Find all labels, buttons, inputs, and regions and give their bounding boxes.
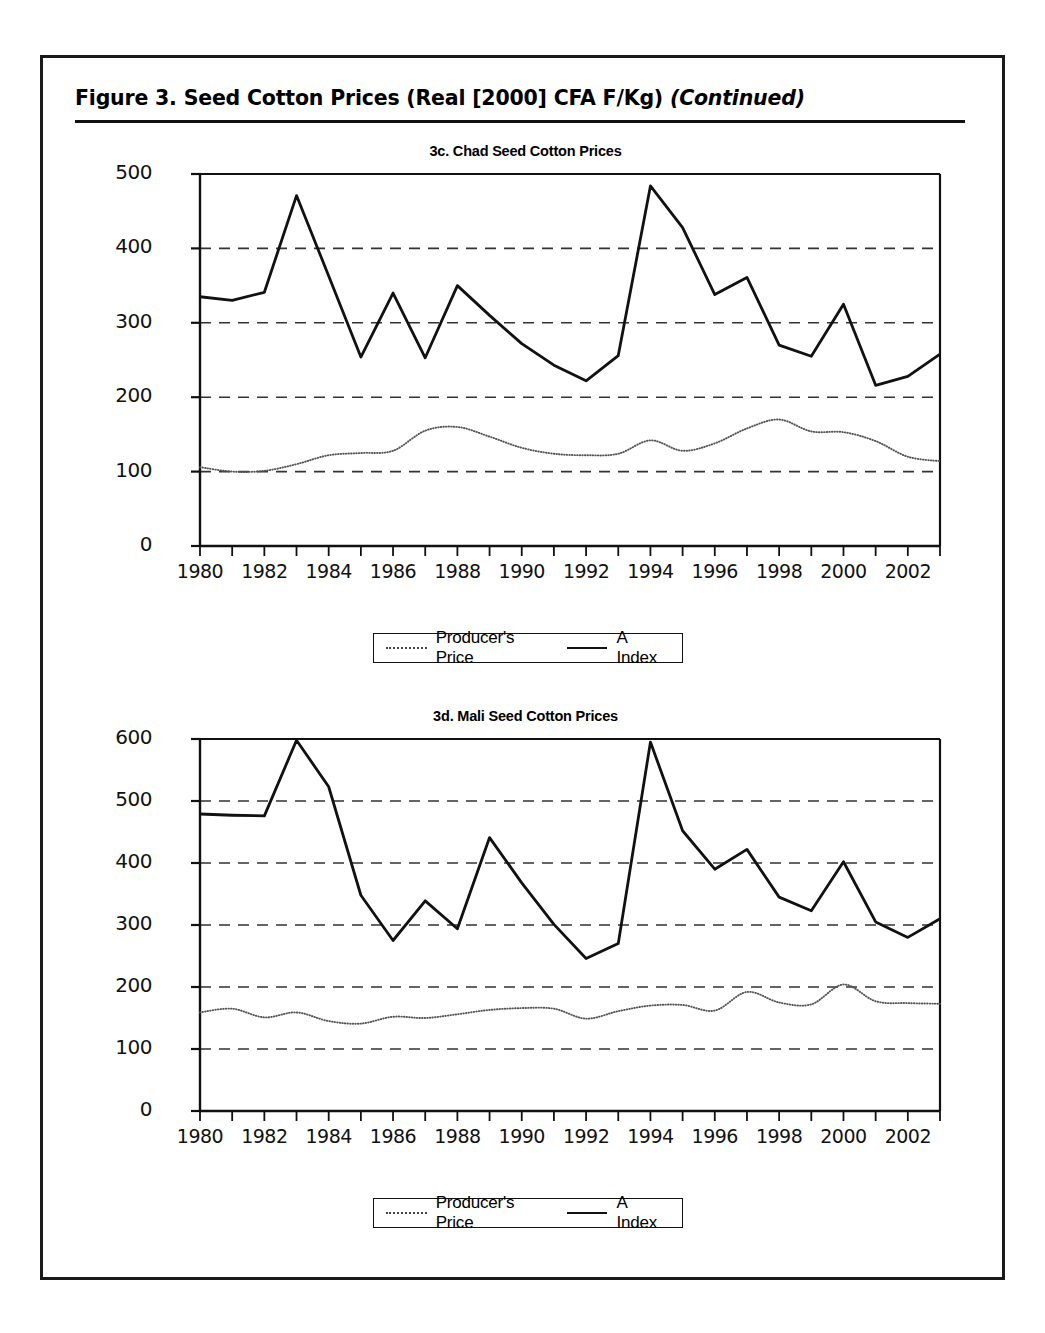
- series-a-index: [200, 186, 940, 385]
- solid-line-swatch-icon: [567, 647, 608, 649]
- chart-3c-legend: Producer's Price A Index: [373, 633, 683, 663]
- x-axis-tick-label: 1988: [422, 560, 492, 582]
- figure-page: Figure 3. Seed Cotton Prices (Real [2000…: [40, 55, 1005, 1280]
- x-axis-tick-label: 2000: [808, 560, 878, 582]
- figure-title-main: Figure 3. Seed Cotton Prices (Real [2000…: [75, 86, 670, 110]
- legend-item-producers-price: Producer's Price: [386, 1193, 553, 1233]
- x-axis-tick-label: 2000: [808, 1125, 878, 1147]
- y-axis-tick-label: 500: [80, 160, 152, 184]
- x-axis-tick-label: 1984: [294, 1125, 364, 1147]
- chart-3c-svg: [158, 168, 948, 588]
- y-axis-tick-label: 200: [80, 973, 152, 997]
- x-axis-tick-label: 1980: [165, 1125, 235, 1147]
- y-axis-tick-label: 300: [80, 309, 152, 333]
- legend-label-producers-price: Producer's Price: [436, 1193, 553, 1233]
- x-axis-tick-label: 1998: [744, 1125, 814, 1147]
- chart-3c: 3c. Chad Seed Cotton Prices Producer's P…: [43, 143, 1008, 688]
- y-axis-tick-label: 400: [80, 234, 152, 258]
- chart-3d-svg: [158, 733, 948, 1153]
- x-axis-tick-label: 1982: [229, 560, 299, 582]
- legend-item-producers-price: Producer's Price: [386, 628, 553, 668]
- y-axis-tick-label: 300: [80, 911, 152, 935]
- legend-label-a-index: A Index: [616, 1193, 670, 1233]
- chart-3d: 3d. Mali Seed Cotton Prices Producer's P…: [43, 708, 1008, 1268]
- dotted-line-swatch-icon: [386, 647, 427, 649]
- x-axis-tick-label: 1994: [615, 1125, 685, 1147]
- x-axis-tick-label: 1984: [294, 560, 364, 582]
- legend-label-producers-price: Producer's Price: [436, 628, 553, 668]
- y-axis-tick-label: 100: [80, 458, 152, 482]
- chart-3d-legend: Producer's Price A Index: [373, 1198, 683, 1228]
- figure-title: Figure 3. Seed Cotton Prices (Real [2000…: [75, 86, 965, 110]
- legend-item-a-index: A Index: [567, 628, 670, 668]
- y-axis-tick-label: 600: [80, 725, 152, 749]
- x-axis-tick-label: 1998: [744, 560, 814, 582]
- y-axis-tick-label: 100: [80, 1035, 152, 1059]
- y-axis-tick-label: 200: [80, 383, 152, 407]
- y-axis-tick-label: 0: [80, 1097, 152, 1121]
- solid-line-swatch-icon: [567, 1212, 608, 1214]
- x-axis-tick-label: 1990: [487, 560, 557, 582]
- chart-3c-plot-area: [158, 168, 948, 588]
- legend-label-a-index: A Index: [616, 628, 670, 668]
- x-axis-tick-label: 2002: [873, 560, 943, 582]
- x-axis-tick-label: 1980: [165, 560, 235, 582]
- chart-3c-title: 3c. Chad Seed Cotton Prices: [43, 143, 1008, 159]
- x-axis-tick-label: 1988: [422, 1125, 492, 1147]
- x-axis-tick-label: 1986: [358, 1125, 428, 1147]
- x-axis-tick-label: 2002: [873, 1125, 943, 1147]
- x-axis-tick-label: 1992: [551, 560, 621, 582]
- legend-item-a-index: A Index: [567, 1193, 670, 1233]
- x-axis-tick-label: 1990: [487, 1125, 557, 1147]
- chart-3d-title: 3d. Mali Seed Cotton Prices: [43, 708, 1008, 724]
- x-axis-tick-label: 1982: [229, 1125, 299, 1147]
- x-axis-tick-label: 1992: [551, 1125, 621, 1147]
- series-producers-price: [200, 985, 940, 1024]
- dotted-line-swatch-icon: [386, 1212, 427, 1214]
- y-axis-tick-label: 400: [80, 849, 152, 873]
- chart-3d-plot-area: [158, 733, 948, 1153]
- series-producers-price: [200, 419, 940, 471]
- x-axis-tick-label: 1986: [358, 560, 428, 582]
- x-axis-tick-label: 1996: [680, 1125, 750, 1147]
- x-axis-tick-label: 1996: [680, 560, 750, 582]
- figure-title-continued: (Continued): [670, 86, 805, 110]
- x-axis-tick-label: 1994: [615, 560, 685, 582]
- y-axis-tick-label: 500: [80, 787, 152, 811]
- y-axis-tick-label: 0: [80, 532, 152, 556]
- title-divider: [75, 120, 965, 123]
